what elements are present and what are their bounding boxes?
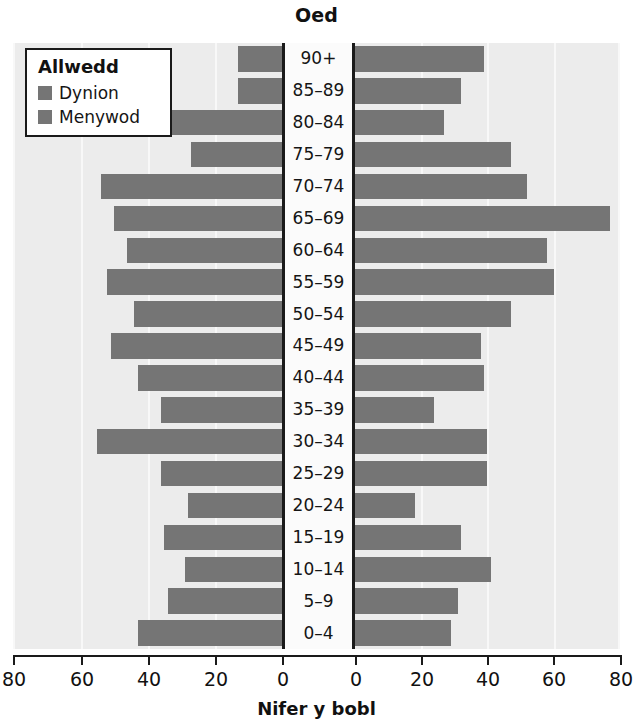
x-tick — [215, 655, 217, 665]
age-group-label: 0–4 — [282, 617, 355, 649]
page-title: Oed — [0, 4, 633, 26]
age-group-label: 5–9 — [282, 585, 355, 617]
bar-male-60–64 — [127, 238, 282, 264]
bar-male-80–84 — [171, 110, 282, 136]
x-tick-label: 40 — [458, 668, 518, 690]
age-group-label: 50–54 — [282, 298, 355, 330]
age-group-label: 85–89 — [282, 75, 355, 107]
age-group-label: 10–14 — [282, 553, 355, 585]
x-tick — [13, 655, 15, 665]
bar-male-65–69 — [114, 206, 282, 232]
age-group-label: 55–59 — [282, 266, 355, 298]
age-group-label: 40–44 — [282, 362, 355, 394]
bar-male-55–59 — [107, 269, 282, 295]
bar-male-45–49 — [111, 333, 282, 359]
legend-swatch-icon — [38, 110, 52, 124]
bar-female-75–79 — [355, 142, 511, 168]
legend-heading: Allwedd — [38, 56, 161, 77]
x-tick-label: 20 — [186, 668, 246, 690]
bar-female-90+ — [355, 46, 484, 72]
bar-female-0–4 — [355, 620, 451, 646]
bar-female-70–74 — [355, 174, 527, 200]
bar-female-5–9 — [355, 588, 458, 614]
bar-male-15–19 — [164, 525, 282, 551]
x-tick-label: 20 — [392, 668, 452, 690]
age-group-label: 25–29 — [282, 458, 355, 490]
x-tick — [355, 655, 357, 665]
x-tick-label: 80 — [591, 668, 633, 690]
age-group-label: 20–24 — [282, 490, 355, 522]
bar-male-40–44 — [138, 365, 282, 391]
x-tick-label: 80 — [0, 668, 44, 690]
x-tick — [81, 655, 83, 665]
bar-female-50–54 — [355, 301, 511, 327]
age-group-label: 45–49 — [282, 330, 355, 362]
bar-female-35–39 — [355, 397, 434, 423]
x-axis-line — [13, 655, 620, 657]
bar-female-15–19 — [355, 525, 461, 551]
x-tick-label: 0 — [326, 668, 386, 690]
x-tick — [148, 655, 150, 665]
legend: Allwedd Dynion Menywod — [25, 48, 172, 137]
bar-male-75–79 — [191, 142, 282, 168]
legend-swatch-icon — [38, 86, 52, 100]
bar-female-30–34 — [355, 429, 487, 455]
bar-female-10–14 — [355, 557, 491, 583]
x-axis-title: Nifer y bobl — [0, 698, 633, 719]
x-tick-label: 60 — [52, 668, 112, 690]
x-tick — [487, 655, 489, 665]
age-group-label: 60–64 — [282, 234, 355, 266]
bar-female-25–29 — [355, 461, 487, 487]
age-group-label: 65–69 — [282, 202, 355, 234]
bar-female-85–89 — [355, 78, 461, 104]
bar-male-90+ — [238, 46, 282, 72]
legend-item-dynion: Dynion — [38, 83, 161, 103]
age-group-label: 75–79 — [282, 139, 355, 171]
age-group-label: 15–19 — [282, 521, 355, 553]
legend-item-menywod: Menywod — [38, 107, 161, 127]
x-tick — [282, 655, 284, 665]
x-tick — [421, 655, 423, 665]
bar-male-85–89 — [238, 78, 282, 104]
age-group-label: 90+ — [282, 43, 355, 75]
bar-female-45–49 — [355, 333, 481, 359]
age-group-label: 70–74 — [282, 171, 355, 203]
bar-female-20–24 — [355, 493, 415, 519]
x-tick — [553, 655, 555, 665]
x-tick-label: 40 — [119, 668, 179, 690]
bar-female-65–69 — [355, 206, 610, 232]
bar-male-30–34 — [97, 429, 282, 455]
age-group-label: 80–84 — [282, 107, 355, 139]
age-group-label: 30–34 — [282, 426, 355, 458]
legend-label-menywod: Menywod — [59, 107, 140, 127]
x-tick — [620, 655, 622, 665]
bar-female-40–44 — [355, 365, 484, 391]
bar-male-10–14 — [185, 557, 282, 583]
bar-male-0–4 — [138, 620, 282, 646]
bar-female-55–59 — [355, 269, 554, 295]
bar-male-25–29 — [161, 461, 282, 487]
bar-male-35–39 — [161, 397, 282, 423]
population-pyramid-figure: Oed 90+85–8980–8475–7970–7465–6960–6455–… — [0, 0, 633, 726]
bar-female-80–84 — [355, 110, 444, 136]
age-group-label: 35–39 — [282, 394, 355, 426]
bar-female-60–64 — [355, 238, 547, 264]
bar-male-70–74 — [101, 174, 282, 200]
bar-male-20–24 — [188, 493, 282, 519]
bar-male-50–54 — [134, 301, 282, 327]
bar-male-5–9 — [168, 588, 282, 614]
legend-label-dynion: Dynion — [59, 83, 119, 103]
x-tick-label: 0 — [253, 668, 313, 690]
x-tick-label: 60 — [524, 668, 584, 690]
